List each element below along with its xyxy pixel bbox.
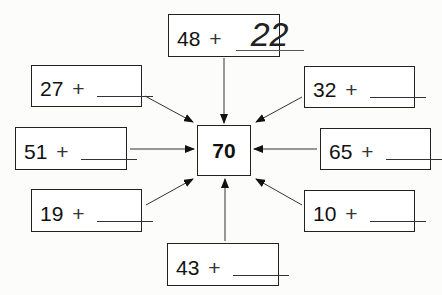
answer-blank[interactable]	[370, 96, 426, 98]
equation-box-top: 48 + 22	[168, 14, 280, 57]
answer-blank[interactable]	[386, 158, 442, 160]
answer-blank[interactable]	[370, 220, 426, 222]
arrow-bottom-right	[256, 179, 302, 205]
answer-blank[interactable]	[233, 274, 289, 276]
addend: 48	[177, 27, 200, 51]
arrow-bottom-left	[146, 179, 193, 205]
target-box: 70	[197, 125, 251, 176]
addend: 32	[313, 78, 336, 102]
plus-sign: +	[361, 140, 373, 164]
plus-sign: +	[72, 77, 84, 101]
addend: 19	[40, 202, 63, 226]
addend: 65	[329, 140, 352, 164]
equation-box-bottom: 43 +	[167, 243, 279, 286]
addend: 51	[24, 140, 47, 164]
answer-blank[interactable]	[97, 95, 153, 97]
plus-sign: +	[72, 202, 84, 226]
equation-box-bottom-right: 10 +	[304, 190, 415, 232]
answer-field[interactable]: 22	[236, 18, 304, 51]
equation-box-bottom-left: 19 +	[31, 189, 142, 232]
equation-box-top-left: 27 +	[31, 65, 142, 107]
plus-sign: +	[209, 27, 221, 51]
equation-box-left: 51 +	[15, 127, 127, 170]
answer-blank[interactable]	[81, 158, 137, 160]
plus-sign: +	[345, 202, 357, 226]
addend: 10	[313, 202, 336, 226]
arrow-top-right	[256, 97, 302, 122]
equation-box-top-right: 32 +	[304, 66, 415, 108]
plus-sign: +	[208, 256, 220, 280]
answer-blank[interactable]	[97, 220, 153, 222]
plus-sign: +	[345, 78, 357, 102]
plus-sign: +	[56, 140, 68, 164]
target-number: 70	[212, 139, 235, 163]
addend: 27	[40, 77, 63, 101]
addend: 43	[176, 256, 199, 280]
equation-box-right: 65 +	[320, 128, 431, 170]
